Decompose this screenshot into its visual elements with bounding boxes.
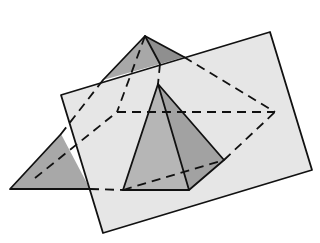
pyramid-plane-diagram bbox=[0, 0, 320, 243]
